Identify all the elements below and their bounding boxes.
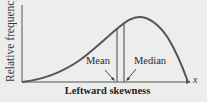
- median-label: Median: [134, 55, 166, 66]
- x-axis-title: Leftward skewness: [0, 85, 207, 96]
- mean-label: Mean: [86, 55, 110, 66]
- x-variable-label: x: [193, 74, 197, 85]
- skewness-figure: Relative frequency Mean Median x Leftwar…: [0, 0, 207, 102]
- y-axis-label-wrap: Relative frequency: [3, 0, 17, 82]
- distribution-curve: [22, 17, 188, 82]
